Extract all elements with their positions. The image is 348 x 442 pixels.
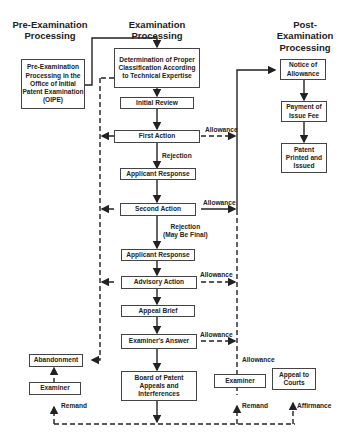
label-allowance-second: Allowance: [203, 199, 236, 207]
box-abandonment: Abandonment: [29, 354, 83, 367]
box-notice-allowance: Notice of Allowance: [280, 59, 326, 80]
box-appeal-brief: Appeal Brief: [121, 305, 195, 317]
header-pre-examination: Pre-Examination Processing: [10, 19, 90, 42]
box-examiner-right: Examiner: [214, 374, 266, 388]
label-allowance-examiner: Allowance: [242, 356, 275, 364]
box-patent-printed: Patent Printed and Issued: [281, 143, 327, 173]
box-applicant-response-1: Applicant Response: [120, 168, 196, 180]
box-classification: Determination of Proper Classification A…: [114, 48, 200, 88]
box-examiners-answer: Examiner's Answer: [121, 334, 197, 349]
label-remand-left: Remand: [61, 402, 87, 410]
dashed-left-spine: [92, 78, 100, 360]
box-appeal-courts: Appeal to Courts: [272, 368, 316, 390]
label-rejection: Rejection: [162, 152, 192, 160]
label-allowance-first: Allowance: [205, 126, 238, 134]
box-payment-fee: Payment of Issue Fee: [281, 101, 327, 122]
box-examiner-left: Examiner: [29, 382, 81, 395]
label-allowance-answer: Allowance: [200, 331, 233, 339]
box-initial-review: Initial Review: [120, 97, 194, 109]
box-first-action: First Action: [114, 130, 200, 143]
box-board: Board of Patent Appeals and Interference…: [121, 371, 197, 401]
connector-allowance-trunk: [237, 70, 275, 210]
box-second-action: Second Action: [120, 203, 196, 216]
header-examination: Examination Processing: [115, 19, 199, 42]
box-advisory-action: Advisory Action: [121, 276, 197, 289]
label-affirmance: Affirmance: [297, 402, 331, 410]
label-allowance-advisory: Allowance: [200, 271, 233, 279]
header-post-examination: Post- Examination Processing: [262, 19, 348, 53]
box-applicant-response-2: Applicant Response: [121, 249, 195, 261]
box-oipe: Pre-Examination Processing in the Office…: [21, 59, 85, 109]
label-rejection-final: Rejection (May Be Final): [163, 223, 208, 239]
label-remand-right: Remand: [242, 402, 268, 410]
